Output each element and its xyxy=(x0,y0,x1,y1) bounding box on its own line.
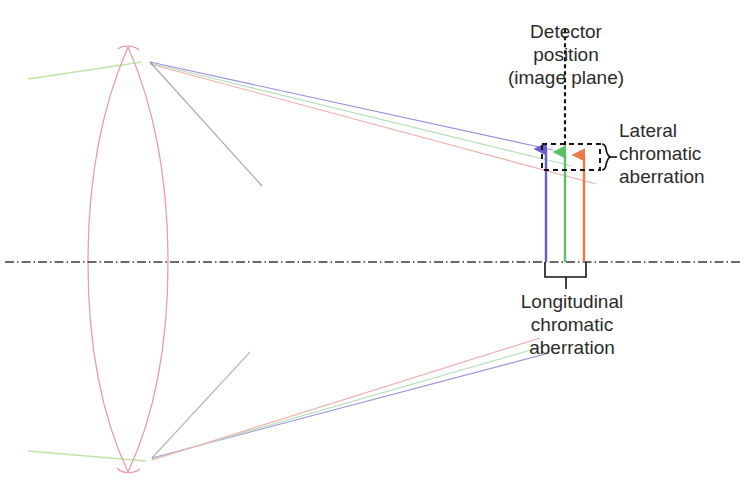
lower-incoming-ray xyxy=(28,451,146,461)
image-height-arrows xyxy=(546,149,584,262)
detector-label-line-1: Detector xyxy=(446,20,686,43)
lens-element xyxy=(88,46,168,473)
lateral-curly-brace xyxy=(602,144,610,170)
detector-label-line-3: (image plane) xyxy=(446,66,686,89)
upper-incoming-ray xyxy=(28,62,142,79)
lens-left-surface xyxy=(88,47,128,472)
chromatic-aberration-diagram: Detector position (image plane) Lateral … xyxy=(0,0,749,484)
detector-label-line-2: position xyxy=(446,43,686,66)
marginal-ray-hints xyxy=(150,62,262,458)
longitudinal-label-line-1: Longitudinal xyxy=(492,290,652,313)
lateral-aberration-bracket xyxy=(542,144,617,170)
lower-marginal-ray xyxy=(152,352,250,458)
lens-right-surface xyxy=(128,47,168,472)
longitudinal-label-line-2: chromatic xyxy=(492,313,652,336)
lateral-label-line-2: chromatic xyxy=(619,142,749,165)
longitudinal-label-line-3: aberration xyxy=(492,336,652,359)
detector-position-label: Detector position (image plane) xyxy=(446,20,686,89)
longitudinal-aberration-bracket xyxy=(545,262,586,289)
lateral-chromatic-aberration-label: Lateral chromatic aberration xyxy=(619,119,749,188)
lower-ray-fan xyxy=(152,338,549,460)
lateral-label-line-1: Lateral xyxy=(619,119,749,142)
longitudinal-bracket-shape xyxy=(545,262,586,277)
longitudinal-chromatic-aberration-label: Longitudinal chromatic aberration xyxy=(492,290,652,359)
upper-marginal-ray xyxy=(150,62,262,186)
lower-green-ray xyxy=(152,346,545,459)
lower-red-ray xyxy=(152,338,540,460)
lateral-label-line-3: aberration xyxy=(619,165,749,188)
